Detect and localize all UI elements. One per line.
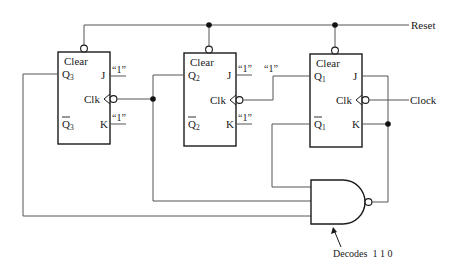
decodes-arrow [331, 227, 341, 247]
q1-line-label: “1” [264, 63, 278, 74]
ff3-k-label: K [100, 118, 108, 130]
clk-bubble-ff3 [110, 96, 117, 103]
clear-bubble-ff2 [206, 46, 213, 53]
ff3-j-label: J [101, 69, 106, 81]
reset-label: Reset [411, 19, 435, 31]
ff2-clk-label: Clk [210, 94, 226, 106]
clear-bubble-ff3 [81, 45, 88, 52]
nand-output-bubble [365, 199, 372, 206]
ff2-clear-label: Clear [190, 56, 214, 68]
ff2-j-label: J [227, 69, 232, 81]
ff3-clear-label: Clear [64, 55, 88, 67]
q1bar-to-nand-wire [272, 124, 311, 187]
reset-bus [84, 22, 409, 47]
ff2-k-input-label: “1” [238, 112, 252, 123]
reset-junction-ff1 [332, 22, 338, 28]
clear-bubble-ff1 [332, 47, 339, 54]
ff1-clk-label: Clk [336, 94, 352, 106]
ff3-k-input-label: “1” [112, 112, 126, 123]
q2-junction [150, 96, 156, 102]
nand-gate [311, 180, 372, 224]
circuit-diagram: Reset Clear Q3 Q3 J Clk K “1” “1” Clear … [0, 0, 453, 262]
q1-to-ff2-clk-wire [243, 76, 310, 100]
ff2-k-label: K [226, 118, 234, 130]
ff3-clk-label: Clk [84, 93, 100, 105]
reset-junction-ff2 [206, 22, 212, 28]
ff3-j-input-label: “1” [112, 64, 126, 75]
ff2-j-input-label: “1” [238, 63, 252, 74]
ff1-j-label: J [353, 70, 358, 82]
ff1-jk-feedback [362, 76, 391, 202]
ff1-clear-label: Clear [316, 57, 340, 69]
jk-junction [385, 121, 391, 127]
clk-bubble-ff1 [362, 97, 369, 104]
ff1-k-label: K [352, 118, 360, 130]
clock-label: Clock [410, 94, 437, 106]
clk-bubble-ff2 [236, 97, 243, 104]
decodes-label: Decodes 1 1 0 [333, 248, 392, 259]
